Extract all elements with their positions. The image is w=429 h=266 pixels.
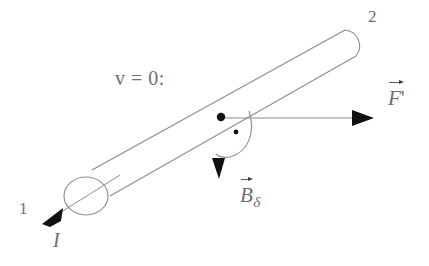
label-velocity-condition: v = 0: — [115, 68, 165, 88]
rod-edge-upper — [92, 30, 345, 170]
force-arrow — [352, 110, 374, 126]
field-dot-small — [234, 130, 239, 135]
label-velocity-condition-text-alt: v = 0: — [115, 67, 165, 89]
label-current-text: I — [53, 229, 60, 251]
current-arrow — [42, 208, 63, 227]
force-vector-group: F' — [388, 88, 405, 109]
label-end-2-text: 2 — [368, 7, 377, 26]
label-force-symbol: F — [388, 86, 401, 110]
label-field: B δ — [240, 185, 260, 210]
field-arrow — [212, 158, 225, 179]
label-field-symbol: B — [240, 183, 253, 207]
label-end-2: 2 — [368, 8, 377, 25]
label-end-1-text: 1 — [19, 199, 28, 218]
force-vector-arrow-overline — [389, 82, 402, 83]
field-vector-group: B — [240, 185, 253, 206]
label-end-1: 1 — [19, 200, 28, 217]
field-dot-large — [217, 113, 225, 121]
label-force-prime: ' — [401, 86, 405, 110]
rod-magnetic-field-diagram — [0, 0, 429, 266]
label-current: I — [53, 230, 60, 250]
field-vector-arrow-overline — [241, 179, 251, 180]
rod-outline — [92, 30, 356, 196]
label-force: F' — [388, 88, 405, 109]
label-field-subscript: δ — [253, 194, 260, 210]
rod-right-end-round — [345, 30, 360, 56]
